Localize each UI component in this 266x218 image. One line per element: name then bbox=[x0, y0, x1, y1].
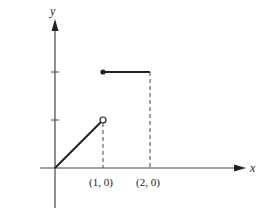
open-circle-marker bbox=[100, 117, 106, 123]
piecewise-graph: y x (1, 0) (2, 0) bbox=[0, 0, 266, 218]
y-axis-arrow-icon bbox=[52, 19, 59, 31]
y-axis-label: y bbox=[49, 4, 56, 18]
closed-circle-marker bbox=[100, 69, 105, 74]
x-tick-label-1: (1, 0) bbox=[89, 176, 113, 189]
x-tick-label-2: (2, 0) bbox=[136, 176, 160, 189]
segment-1-line bbox=[55, 123, 101, 169]
x-axis-label: x bbox=[249, 161, 256, 175]
x-axis-arrow-icon bbox=[234, 165, 246, 172]
